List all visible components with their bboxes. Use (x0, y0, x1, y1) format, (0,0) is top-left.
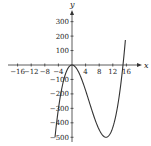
y-tick-label: −500 (50, 134, 69, 142)
x-tick-label: 4 (83, 68, 88, 76)
x-axis-arrow-icon (137, 63, 142, 67)
x-tick-label: 8 (97, 68, 101, 76)
y-tick-label: −300 (50, 105, 69, 113)
y-tick-label: −200 (50, 90, 69, 98)
tick-labels: −16−12−8−4481216300200100−100−200−300−40… (10, 18, 131, 142)
y-tick-label: 100 (56, 47, 69, 55)
y-tick-label: 200 (56, 33, 69, 41)
x-tick-label: −8 (40, 68, 50, 76)
x-tick-label: 12 (108, 68, 117, 76)
y-tick-label: 300 (56, 18, 69, 26)
cubic-function-chart: −16−12−8−4481216300200100−100−200−300−40… (0, 0, 151, 146)
x-tick-label: 16 (122, 68, 131, 76)
y-axis-arrow-icon (70, 10, 74, 15)
x-axis-label: x (144, 61, 149, 70)
y-tick-label: −100 (50, 76, 69, 84)
y-axis-label: y (69, 0, 75, 9)
x-tick-label: −12 (24, 68, 39, 76)
x-tick-label: −4 (53, 68, 64, 76)
y-tick-label: −400 (50, 119, 69, 127)
